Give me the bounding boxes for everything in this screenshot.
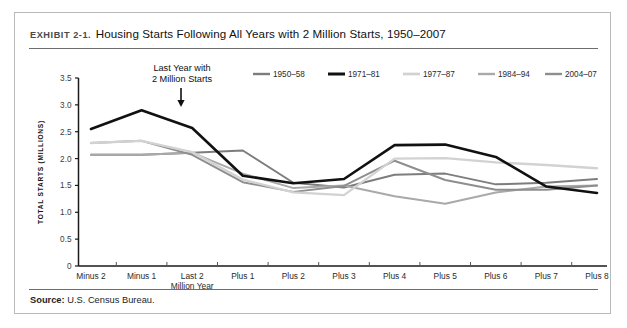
chart-plot-area: 00.51.01.52.02.53.03.5TOTAL STARTS (MILL… <box>15 49 612 289</box>
legend-label: 1950–58 <box>273 70 305 79</box>
x-axis-tick-label: Minus 2 <box>76 271 106 281</box>
exhibit-number: EXHIBIT 2-1. <box>30 30 91 40</box>
annotation-line-1: Last Year with <box>153 63 210 73</box>
y-axis-tick-label: 2.0 <box>60 155 72 164</box>
x-axis-tick-label: Plus 8 <box>585 271 609 281</box>
legend-label: 1971–81 <box>348 70 380 79</box>
legend-label: 1984–94 <box>498 70 530 79</box>
source-prefix: Source: <box>30 295 65 305</box>
x-axis-tick-label: Last 2 <box>181 271 204 281</box>
legend-label: 2004–07 <box>565 70 597 79</box>
down-arrow-icon <box>177 100 184 107</box>
x-axis-tick-label: Million Year <box>171 281 214 289</box>
y-axis-tick-label: 1.0 <box>60 208 72 217</box>
x-axis-tick-label: Minus 1 <box>127 271 157 281</box>
y-axis-tick-label: 0.5 <box>60 235 72 244</box>
y-axis-tick-label: 0 <box>67 262 72 271</box>
x-axis-tick-label: Plus 6 <box>484 271 508 281</box>
y-axis-tick-label: 1.5 <box>60 181 72 190</box>
exhibit-header: EXHIBIT 2-1. Housing Starts Following Al… <box>15 13 610 49</box>
y-axis-tick-label: 3.5 <box>60 74 72 83</box>
x-axis-tick-label: Plus 5 <box>434 271 458 281</box>
series-line <box>91 151 597 188</box>
source-text: U.S. Census Bureau. <box>67 295 154 305</box>
footer-divider <box>29 289 598 290</box>
x-axis-tick-label: Plus 1 <box>231 271 255 281</box>
annotation-line-2: 2 Million Starts <box>152 74 213 84</box>
y-axis-title: TOTAL STARTS (MILLIONS) <box>37 120 45 224</box>
line-chart: 00.51.01.52.02.53.03.5TOTAL STARTS (MILL… <box>15 49 612 289</box>
legend-label: 1977–87 <box>423 70 455 79</box>
y-axis-tick-label: 2.5 <box>60 128 72 137</box>
x-axis-tick-label: Plus 2 <box>282 271 306 281</box>
series-line <box>91 110 597 193</box>
exhibit-title: Housing Starts Following All Years with … <box>96 27 446 40</box>
y-axis-tick-label: 3.0 <box>60 101 72 110</box>
source-note: Source: U.S. Census Bureau. <box>30 295 155 305</box>
x-axis-tick-label: Plus 7 <box>535 271 559 281</box>
x-axis-tick-label: Plus 4 <box>383 271 407 281</box>
x-axis-tick-label: Plus 3 <box>332 271 356 281</box>
exhibit-card: EXHIBIT 2-1. Housing Starts Following Al… <box>14 12 611 314</box>
